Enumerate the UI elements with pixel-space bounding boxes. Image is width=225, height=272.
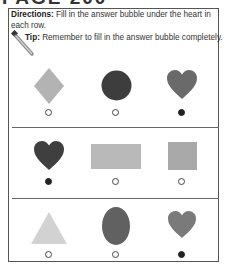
answer-bubble[interactable] <box>112 178 119 185</box>
diamond-shape <box>34 68 64 104</box>
answer-bubble-filled[interactable] <box>45 178 52 185</box>
tip: Tip: Remember to fill in the answer bubb… <box>25 33 220 43</box>
answer-bubble[interactable] <box>112 251 119 258</box>
worksheet: Directions: Fill in the answer bubble un… <box>8 8 219 262</box>
directions: Directions: Fill in the answer bubble un… <box>11 10 216 31</box>
answer-bubble[interactable] <box>178 178 185 185</box>
answer-bubble-filled[interactable] <box>178 251 185 258</box>
row1-heart-cell <box>152 64 212 119</box>
row-divider <box>12 127 219 128</box>
tip-label: Tip: <box>25 33 40 42</box>
row2-square-cell <box>152 137 212 192</box>
triangle-shape <box>31 212 67 244</box>
row1-diamond-cell <box>19 64 79 119</box>
row2-heart-cell <box>19 137 79 192</box>
answer-bubble[interactable] <box>45 109 52 116</box>
heart-shape <box>167 211 197 239</box>
answer-bubble[interactable] <box>45 251 52 258</box>
directions-label: Directions: <box>11 10 54 19</box>
heart-shape <box>167 70 197 100</box>
square-shape <box>168 142 197 170</box>
row3-triangle-cell <box>19 205 79 260</box>
oval-shape <box>102 207 130 245</box>
answer-bubble-filled[interactable] <box>178 109 185 116</box>
row3-oval-cell <box>86 205 146 260</box>
answer-bubble[interactable] <box>112 109 119 116</box>
row1-circle-cell <box>86 64 146 119</box>
rectangle-shape <box>91 144 141 169</box>
row-divider <box>12 198 219 199</box>
row2-rectangle-cell <box>86 137 146 192</box>
row3-heart-cell <box>152 205 212 260</box>
circle-shape <box>101 70 132 101</box>
tip-text: Remember to fill in the answer bubble co… <box>40 33 223 42</box>
heart-shape <box>34 141 64 171</box>
